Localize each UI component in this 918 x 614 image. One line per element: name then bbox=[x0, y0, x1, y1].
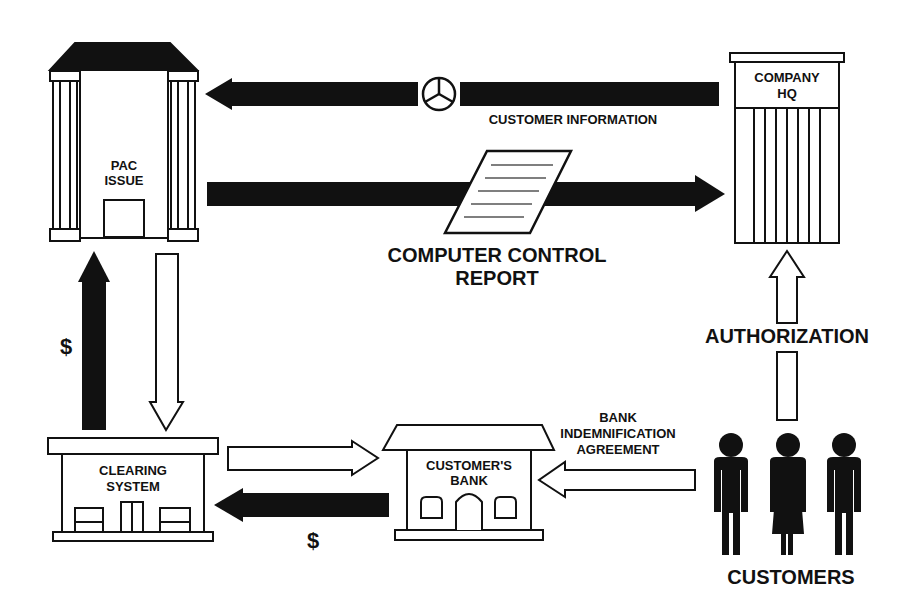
customers-label: CUSTOMERS bbox=[727, 566, 854, 588]
indemnification-label-line2: INDEMNIFICATION bbox=[560, 426, 675, 441]
clearing-to-bank-arrow bbox=[228, 441, 378, 475]
company-hq-label-line2: HQ bbox=[777, 86, 797, 101]
indemnification-arrow bbox=[539, 462, 695, 497]
steering-wheel-icon bbox=[423, 78, 455, 110]
pac-flow-diagram: PAC ISSUE COMPANY HQ CUSTOMER INFORMATIO… bbox=[0, 0, 918, 614]
woman-icon bbox=[770, 433, 806, 555]
indemnification-label-line1: BANK bbox=[599, 410, 637, 425]
pac-to-clearing-arrow bbox=[150, 254, 183, 430]
dollar-left-label: $ bbox=[60, 334, 72, 359]
customer-information-label: CUSTOMER INFORMATION bbox=[489, 112, 658, 127]
company-hq-label-line1: COMPANY bbox=[754, 70, 820, 85]
pac-roof bbox=[50, 43, 197, 70]
indemnification-label-line3: AGREEMENT bbox=[576, 442, 659, 457]
clearing-system-label-line2: SYSTEM bbox=[106, 479, 159, 494]
man-icon bbox=[714, 433, 748, 555]
customer-information-arrow bbox=[205, 78, 719, 110]
computer-control-report-label-line1: COMPUTER CONTROL bbox=[388, 244, 607, 266]
pac-issue-label-line2: ISSUE bbox=[104, 173, 143, 188]
customers-bank-label-line1: CUSTOMER'S bbox=[426, 458, 512, 473]
computer-control-report-label-line2: REPORT bbox=[455, 267, 538, 289]
clearing-system-label-line1: CLEARING bbox=[99, 463, 167, 478]
pac-issue-building bbox=[50, 43, 198, 241]
man-icon bbox=[827, 433, 861, 555]
pac-issue-label-line1: PAC bbox=[111, 158, 138, 173]
customers-figures bbox=[714, 433, 861, 555]
dollar-bottom-label: $ bbox=[307, 528, 319, 553]
customers-bank-label-line2: BANK bbox=[450, 473, 488, 488]
dollar-up-arrow bbox=[78, 251, 110, 430]
dollar-left-arrow bbox=[214, 488, 389, 522]
pac-door bbox=[104, 200, 144, 237]
authorization-label: AUTHORIZATION bbox=[705, 325, 869, 347]
